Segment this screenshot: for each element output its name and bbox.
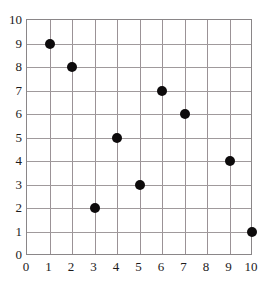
y-tick-label: 7 (16, 83, 23, 96)
gridline-vertical (95, 20, 96, 254)
data-point (225, 156, 235, 166)
data-point (135, 180, 145, 190)
x-tick-label: 2 (68, 260, 75, 273)
x-tick-label: 10 (245, 260, 258, 273)
data-point (90, 203, 100, 213)
plot-area (26, 19, 252, 255)
x-tick-label: 9 (225, 260, 232, 273)
data-point (157, 86, 167, 96)
gridline-horizontal (27, 67, 251, 68)
y-tick-label: 9 (16, 36, 23, 49)
x-tick-label: 7 (180, 260, 187, 273)
y-tick-label: 1 (16, 224, 23, 237)
data-point (67, 62, 77, 72)
y-tick-label: 4 (16, 154, 23, 167)
gridline-vertical (140, 20, 141, 254)
y-tick-label: 10 (9, 13, 22, 26)
x-tick-label: 5 (135, 260, 142, 273)
gridline-vertical (72, 20, 73, 254)
x-tick-label: 4 (113, 260, 120, 273)
gridline-horizontal (27, 44, 251, 45)
gridline-vertical (207, 20, 208, 254)
gridline-vertical (230, 20, 231, 254)
data-point (112, 133, 122, 143)
data-point (45, 39, 55, 49)
gridline-horizontal (27, 232, 251, 233)
x-tick-label: 0 (23, 260, 30, 273)
x-tick-label: 3 (90, 260, 97, 273)
y-tick-label: 2 (16, 201, 23, 214)
gridline-horizontal (27, 114, 251, 115)
gridline-vertical (162, 20, 163, 254)
y-tick-label: 5 (16, 130, 23, 143)
scatter-chart: 012345678910 012345678910 (0, 0, 276, 291)
y-tick-label: 3 (16, 177, 23, 190)
y-tick-label: 8 (16, 60, 23, 73)
data-point (247, 227, 257, 237)
y-tick-label: 0 (16, 248, 23, 261)
gridline-vertical (50, 20, 51, 254)
data-point (180, 109, 190, 119)
gridline-horizontal (27, 161, 251, 162)
gridline-horizontal (27, 138, 251, 139)
y-tick-label: 6 (16, 107, 23, 120)
gridline-vertical (185, 20, 186, 254)
x-tick-label: 8 (203, 260, 210, 273)
gridline-horizontal (27, 91, 251, 92)
x-tick-label: 6 (158, 260, 165, 273)
gridline-horizontal (27, 208, 251, 209)
x-tick-label: 1 (45, 260, 52, 273)
